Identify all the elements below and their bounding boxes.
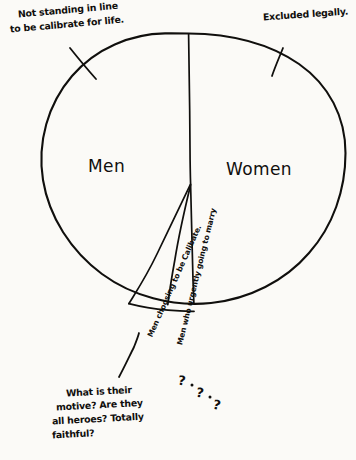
- annotation-bottom-left-line3: all heroes? Totally: [52, 411, 144, 427]
- annotation-top-left: Not standing in line to be calibrate for…: [9, 0, 124, 34]
- slice-label-women: Women: [226, 159, 292, 179]
- slice-label-men-text: Men: [88, 156, 125, 176]
- question-trail-dot-2: [209, 396, 212, 399]
- question-mark-1: ?: [177, 373, 187, 389]
- annotation-bottom-left: What is their motive? Are they all heroe…: [52, 384, 144, 440]
- slice-divider-celibate-left: [129, 185, 190, 304]
- sketch-canvas: Not standing in line to be calibrate for…: [0, 0, 356, 460]
- annotation-bottom-left-line1: What is their: [66, 384, 133, 398]
- annotation-bottom-left-line4: faithful?: [52, 427, 95, 440]
- pie-circle-outline: [41, 33, 345, 303]
- annotation-bottom-left-line2: motive? Are they: [56, 397, 144, 413]
- question-mark-3: ?: [212, 397, 223, 413]
- slice-label-men: Men: [88, 156, 125, 176]
- question-mark-trail: ? ? ?: [177, 373, 222, 413]
- question-mark-2: ?: [195, 385, 205, 401]
- question-trail-dot-1: [191, 384, 194, 387]
- leader-line-bottom-left: [119, 333, 139, 377]
- annotation-top-right: Excluded legally.: [263, 6, 349, 23]
- slice-divider-vertical: [189, 34, 194, 303]
- pie-chart-sketch: Not standing in line to be calibrate for…: [0, 0, 356, 460]
- annotation-top-right-line1: Excluded legally.: [263, 6, 349, 23]
- slice-label-women-text: Women: [226, 159, 292, 179]
